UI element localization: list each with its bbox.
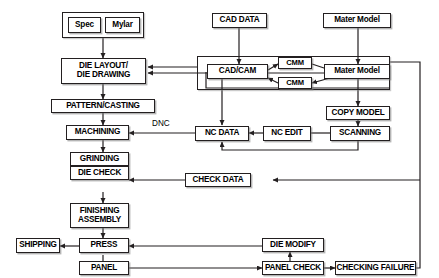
node-die-check[interactable]: DIE CHECK [70,166,129,180]
node-mater-model-mid[interactable]: Mater Model [324,64,390,79]
node-finishing-assembly[interactable]: FINISHING ASSEMBLY [70,203,129,228]
edge-label-dnc: DNC [152,119,170,128]
node-press[interactable]: PRESS [79,238,129,253]
node-nc-data[interactable]: NC DATA [195,126,249,141]
node-mater-model-top[interactable]: Mater Model [323,13,391,28]
node-cmm-upper[interactable]: CMM [278,57,312,69]
node-cad-cam[interactable]: CAD/CAM [207,64,268,79]
node-spec[interactable]: Spec [68,17,101,33]
node-nc-edit[interactable]: NC EDIT [263,126,311,141]
node-grinding[interactable]: GRINDING [70,152,129,166]
node-scanning[interactable]: SCANNING [330,126,390,141]
node-shipping[interactable]: SHIPPING [16,238,60,253]
node-die-modify[interactable]: DIE MODIFY [262,238,324,252]
node-die-layout[interactable]: DIE LAYOUT/ DIE DRAWING [61,58,146,84]
node-check-data[interactable]: CHECK DATA [185,173,251,187]
node-cmm-lower[interactable]: CMM [278,77,312,89]
node-copy-model[interactable]: COPY MODEL [326,106,390,120]
flowchart-diagram: Spec Mylar DIE LAYOUT/ DIE DRAWING PATTE… [0,0,439,278]
node-cad-data[interactable]: CAD DATA [212,13,267,28]
die-layout-line2: DIE DRAWING [77,71,130,80]
node-panel[interactable]: PANEL [79,261,129,275]
finishing-line2: ASSEMBLY [78,216,121,225]
node-checking-failure[interactable]: CHECKING FAILURE [335,261,416,275]
node-mylar[interactable]: Mylar [105,17,140,33]
node-machining[interactable]: MACHINING [66,125,129,140]
node-pattern-casting[interactable]: PATTERN/CASTING [51,99,155,113]
node-panel-check[interactable]: PANEL CHECK [262,261,324,275]
